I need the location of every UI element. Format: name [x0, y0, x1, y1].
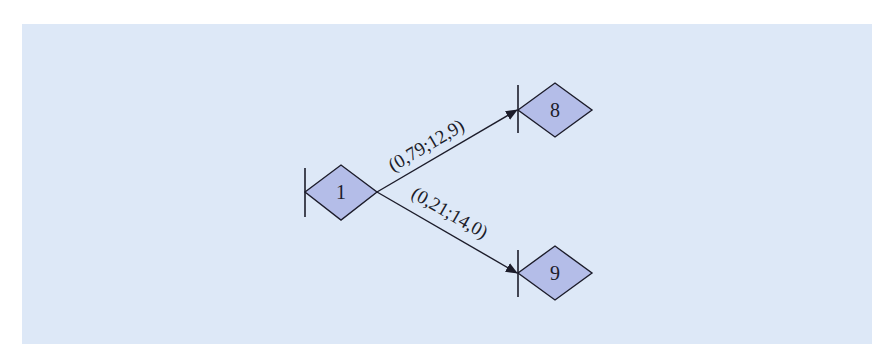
edge-1-9: (0,21;14,0)	[377, 182, 517, 273]
node-label: 8	[550, 99, 560, 121]
tree-diagram: (0,79;12,9) (0,21;14,0) 1 8 9	[0, 0, 892, 364]
node-9[interactable]: 9	[518, 246, 592, 300]
node-label: 1	[336, 181, 346, 203]
node-label: 9	[550, 262, 560, 284]
node-1[interactable]: 1	[305, 165, 377, 220]
node-8[interactable]: 8	[518, 83, 592, 137]
edge-1-8: (0,79;12,9)	[377, 110, 517, 192]
